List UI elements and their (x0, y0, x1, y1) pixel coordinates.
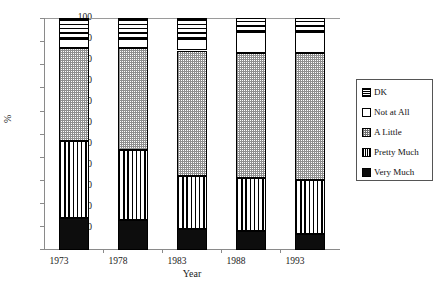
y-axis-title: % (2, 115, 13, 123)
x-tick-4 (280, 249, 281, 253)
legend-swatch-dk-icon (362, 88, 371, 97)
legend: DK Not at All A Little Pretty Much Very … (356, 79, 433, 181)
bar-1993 (295, 18, 325, 250)
bar-1978 (118, 18, 148, 250)
legend-label-pretty-much: Pretty Much (374, 148, 419, 157)
y-tick-30 (40, 180, 45, 181)
y-tick-60 (40, 111, 45, 112)
segment-pretty-much (59, 141, 89, 218)
segment-not-at-all (59, 39, 89, 48)
segment-a-little (236, 53, 266, 178)
segment-dk (295, 18, 325, 32)
segment-pretty-much (236, 178, 266, 231)
x-tick-3 (221, 249, 222, 253)
segment-a-little (295, 53, 325, 181)
segment-not-at-all (177, 39, 207, 51)
x-axis-title: Year (44, 268, 340, 279)
legend-swatch-pretty-much-icon (362, 148, 371, 157)
legend-label-very-much: Very Much (374, 168, 414, 177)
y-tick-50 (40, 134, 45, 135)
segment-not-at-all (295, 32, 325, 53)
bar-1973 (59, 18, 89, 250)
x-tick-1 (103, 249, 104, 253)
y-tick-90 (40, 41, 45, 42)
segment-dk (177, 18, 207, 39)
legend-label-not-at-all: Not at All (374, 108, 410, 117)
segment-very-much (59, 218, 89, 250)
y-tick-20 (40, 203, 45, 204)
legend-item-pretty-much: Pretty Much (362, 148, 419, 157)
segment-not-at-all (118, 39, 148, 48)
legend-swatch-very-much-icon (362, 168, 371, 177)
segment-very-much (236, 231, 266, 250)
legend-swatch-a-little-icon (362, 128, 371, 137)
segment-a-little (177, 51, 207, 176)
x-tick-label-1973: 1973 (31, 256, 87, 266)
legend-item-not-at-all: Not at All (362, 108, 410, 117)
y-tick-40 (40, 157, 45, 158)
legend-swatch-not-at-all-icon (362, 108, 371, 117)
segment-very-much (295, 234, 325, 250)
legend-item-very-much: Very Much (362, 168, 414, 177)
y-tick-10 (40, 226, 45, 227)
segment-not-at-all (236, 32, 266, 53)
legend-label-dk: DK (374, 88, 387, 97)
x-tick-label-1983: 1983 (149, 256, 205, 266)
legend-item-dk: DK (362, 88, 387, 97)
segment-pretty-much (177, 176, 207, 229)
segment-dk (118, 18, 148, 39)
segment-very-much (177, 229, 207, 250)
y-tick-70 (40, 87, 45, 88)
x-tick-label-1993: 1993 (267, 256, 323, 266)
x-tick-label-1978: 1978 (90, 256, 146, 266)
segment-pretty-much (295, 180, 325, 233)
segment-a-little (59, 48, 89, 141)
segment-pretty-much (118, 150, 148, 220)
x-tick-2 (162, 249, 163, 253)
segment-a-little (118, 48, 148, 150)
y-tick-0 (40, 249, 45, 250)
segment-dk (59, 18, 89, 39)
x-tick-label-1988: 1988 (208, 256, 264, 266)
plot-area (44, 18, 340, 250)
segment-dk (236, 18, 266, 32)
legend-item-a-little: A Little (362, 128, 402, 137)
stacked-bar-chart: % 100 90 80 70 60 50 40 30 20 10 0 (0, 0, 438, 286)
bar-1983 (177, 18, 207, 250)
bar-1988 (236, 18, 266, 250)
y-tick-100 (40, 18, 45, 19)
y-tick-80 (40, 64, 45, 65)
legend-label-a-little: A Little (374, 128, 402, 137)
segment-very-much (118, 220, 148, 250)
